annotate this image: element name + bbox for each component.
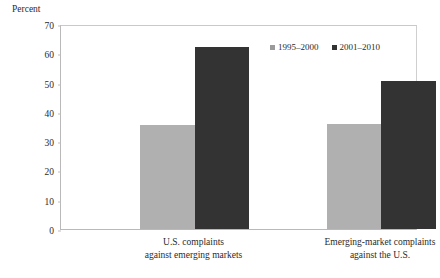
legend-entry-1: 1995–2000 — [270, 42, 319, 52]
legend-label: 1995–2000 — [278, 42, 319, 52]
y-axis-tick-mark — [58, 113, 61, 114]
y-axis-tick-mark — [58, 201, 61, 202]
y-axis-tick-mark — [58, 84, 61, 85]
bar-series2-group1 — [195, 47, 250, 229]
y-axis-title: Percent — [12, 4, 41, 15]
bar-series1-group2 — [327, 124, 382, 229]
category-label-line: against emerging markets — [99, 249, 289, 262]
category-label-line: against the U.S. — [285, 249, 440, 262]
plot-area: 010203040506070 1995–20002001–2010 — [60, 25, 417, 230]
x-axis-category-label-2: Emerging-market complaintsagainst the U.… — [285, 236, 440, 261]
bar-series1-group1 — [140, 125, 195, 229]
x-axis-category-label-1: U.S. complaintsagainst emerging markets — [99, 236, 289, 261]
y-axis-tick-mark — [58, 231, 61, 232]
legend-entry-2: 2001–2010 — [332, 42, 381, 52]
y-axis-tick-mark — [58, 172, 61, 173]
legend-label: 2001–2010 — [340, 42, 381, 52]
category-label-line: U.S. complaints — [99, 236, 289, 249]
legend: 1995–20002001–2010 — [270, 42, 380, 52]
y-axis-tick-mark — [58, 55, 61, 56]
category-label-line: Emerging-market complaints — [285, 236, 440, 249]
y-axis-tick-mark — [58, 26, 61, 27]
x-axis-category-labels: U.S. complaintsagainst emerging marketsE… — [60, 236, 418, 278]
legend-swatch-icon — [270, 45, 275, 50]
legend-swatch-icon — [332, 45, 337, 50]
bar-series2-group2 — [381, 81, 436, 229]
y-axis-tick-mark — [58, 143, 61, 144]
